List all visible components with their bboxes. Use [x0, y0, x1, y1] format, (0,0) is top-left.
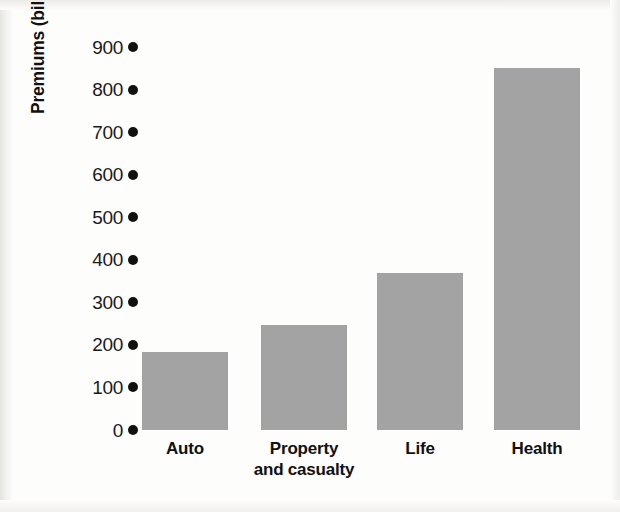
y-tick-label: 900 [92, 38, 123, 57]
y-tick-300: 300 [60, 292, 138, 312]
y-tick-label: 800 [92, 80, 123, 99]
y-tick-700: 700 [60, 122, 138, 142]
bar-chart-figure: Premiums (billions of dollars per year) … [0, 0, 620, 512]
y-tick-900: 900 [60, 37, 138, 57]
bar-slot [375, 40, 465, 430]
y-tick-label: 100 [92, 378, 123, 397]
y-tick-200: 200 [60, 335, 138, 355]
y-tick-label: 200 [92, 335, 123, 354]
bar-life [377, 273, 463, 430]
x-label-health: Health [462, 438, 612, 459]
y-tick-label: 600 [92, 165, 123, 184]
y-tick-500: 500 [60, 207, 138, 227]
page-edge-bottom [0, 500, 620, 512]
y-tick-label: 700 [92, 123, 123, 142]
y-tick-600: 600 [60, 165, 138, 185]
bar-slot [492, 40, 582, 430]
y-axis-title: Premiums (billions of dollars per year) [28, 0, 54, 114]
page-edge-top [0, 0, 620, 10]
x-label-line: Health [462, 438, 612, 459]
page-edge-right [610, 0, 620, 512]
y-tick-800: 800 [60, 80, 138, 100]
bar-health [494, 68, 580, 430]
y-tick-label: 400 [92, 250, 123, 269]
y-tick-label: 0 [113, 421, 123, 440]
page-edge-left [0, 0, 14, 512]
bar-auto [142, 352, 228, 430]
y-tick-400: 400 [60, 250, 138, 270]
y-tick-label: 300 [92, 293, 123, 312]
y-tick-100: 100 [60, 377, 138, 397]
bar-slot [140, 40, 230, 430]
x-label-line: and casualty [229, 459, 379, 480]
y-tick-label: 500 [92, 208, 123, 227]
y-tick-0: 0 [60, 420, 138, 440]
bar-slot [259, 40, 349, 430]
bar-property-and-casualty [261, 325, 347, 430]
plot-area [136, 40, 596, 430]
